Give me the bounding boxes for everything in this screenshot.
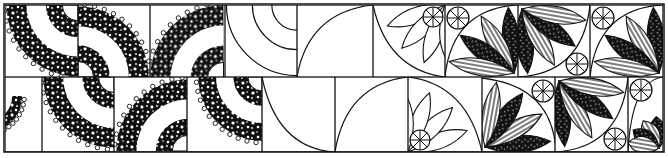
quilt-block-concentric-arcs [225,5,297,77]
quilt-block-fan-filled [445,5,522,81]
quilt-blocks-drawing [0,0,668,158]
quilt-block-quarter-curve [335,77,408,152]
quilt-block-arc-scribble [78,3,153,77]
quilt-block-fan-filled [590,5,667,81]
quilt-pattern-figure [0,0,668,158]
quilt-block-fan-filled-partial [627,77,668,156]
quilt-block-fan-filled [514,1,590,77]
quilt-block-quarter-curve [297,5,373,77]
quilt-block-arc-scribble [113,75,188,152]
quilt-block-fan-filled [477,77,556,155]
quilt-block-fan-filled [551,73,628,152]
quilt-block-arc-scribble [2,5,78,80]
quilt-block-quarter-curve-inv [262,77,335,152]
quilt-block-arc-scribble [39,77,114,152]
quilt-block-arc-scribble-small [187,77,262,152]
quilt-block-arc-scribble [148,1,225,78]
